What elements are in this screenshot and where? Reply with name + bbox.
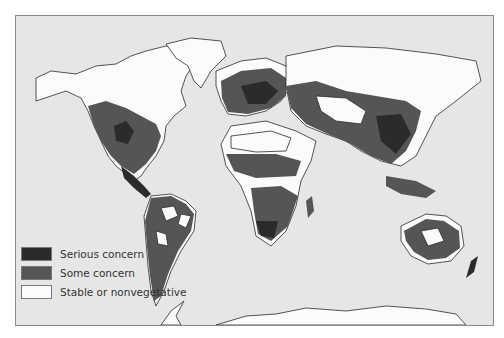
se-asia-islands bbox=[386, 176, 436, 198]
legend-item-stable: Stable or nonvegetative bbox=[21, 282, 186, 301]
antarctic-peninsula bbox=[161, 301, 184, 325]
legend-swatch-stable bbox=[21, 285, 52, 299]
map-legend: Serious concern Some concern Stable or n… bbox=[21, 244, 186, 301]
antarctica bbox=[216, 306, 466, 325]
legend-label-serious: Serious concern bbox=[60, 248, 144, 260]
legend-item-serious: Serious concern bbox=[21, 244, 186, 263]
legend-label-stable: Stable or nonvegetative bbox=[60, 286, 186, 298]
madagascar bbox=[306, 196, 314, 218]
legend-label-some: Some concern bbox=[60, 267, 135, 279]
new-zealand bbox=[466, 256, 478, 278]
legend-swatch-some bbox=[21, 266, 52, 280]
legend-swatch-serious bbox=[21, 247, 52, 261]
map-frame: Serious concern Some concern Stable or n… bbox=[15, 15, 494, 326]
legend-item-some: Some concern bbox=[21, 263, 186, 282]
